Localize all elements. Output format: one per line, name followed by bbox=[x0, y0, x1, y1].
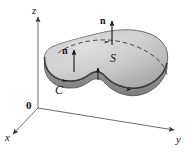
axis-label-z: z bbox=[32, 5, 36, 16]
surface-label-S: S bbox=[110, 52, 116, 64]
x-axis bbox=[13, 108, 38, 134]
curve-label-C: C bbox=[55, 84, 63, 96]
normal-label-top: n bbox=[100, 16, 106, 26]
axis-label-origin: 0 bbox=[26, 100, 32, 111]
stokes-theorem-figure: z x y 0 n n S C bbox=[0, 0, 188, 153]
y-axis bbox=[38, 108, 174, 130]
axis-label-y: y bbox=[176, 134, 181, 145]
axis-label-x: x bbox=[5, 132, 10, 143]
figure-canvas bbox=[0, 0, 188, 153]
normal-label-left: n bbox=[62, 46, 68, 56]
